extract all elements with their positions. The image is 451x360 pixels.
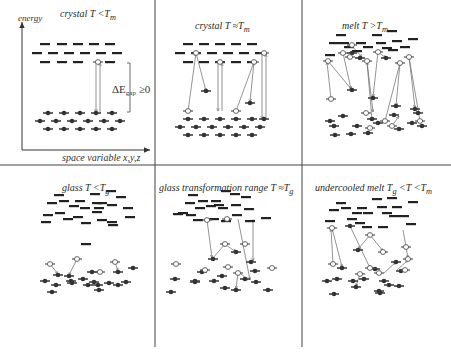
transition-arrow [384, 262, 396, 273]
energy-level [239, 52, 249, 54]
occupied-state-dot [78, 127, 83, 132]
title-text: glass transformation range T ≈T [159, 182, 289, 193]
occupied-state-dot [376, 121, 381, 126]
occupied-state-dot [96, 283, 101, 288]
occupied-state-dot [397, 284, 402, 289]
occupied-state-dot [178, 125, 183, 130]
occupied-state-dot [354, 285, 359, 290]
panel-crystal-at-tm [175, 43, 269, 137]
empty-state-circle [364, 59, 369, 64]
energy-level [81, 222, 91, 224]
energy-level [400, 46, 410, 48]
empty-state-circle [95, 60, 100, 65]
occupied-state-dot [325, 279, 330, 284]
occupied-state-dot [110, 127, 115, 132]
energy-level [94, 207, 104, 209]
occupied-state-dot [218, 133, 223, 138]
occupied-state-dot [362, 277, 367, 282]
occupied-state-dot [110, 111, 115, 116]
occupied-state-dot [382, 279, 387, 284]
transition-arrow [328, 61, 352, 90]
energy-level [223, 52, 233, 54]
occupied-state-dot [378, 291, 383, 296]
panel-glass-below-tg [40, 190, 138, 294]
occupied-state-dot [340, 266, 345, 271]
energy-level [112, 52, 122, 54]
empty-state-circle [225, 265, 230, 270]
empty-state-circle [397, 61, 402, 66]
occupied-state-dot [70, 281, 75, 286]
empty-state-circle [269, 266, 274, 271]
occupied-state-dot [394, 104, 399, 109]
occupied-state-dot [46, 127, 51, 132]
energy-level [57, 43, 67, 45]
empty-state-circle [357, 272, 362, 277]
empty-state-circle [261, 51, 266, 56]
energy-level [73, 61, 83, 63]
empty-state-circle [406, 55, 411, 60]
energy-level [372, 34, 382, 36]
occupied-state-dot [254, 280, 259, 285]
energy-level [57, 61, 67, 63]
occupied-state-dot [266, 288, 271, 293]
energy-level [241, 196, 251, 198]
occupied-state-dot [223, 286, 228, 291]
occupied-state-dot [410, 121, 415, 126]
occupied-state-dot [366, 131, 371, 136]
energy-level [41, 221, 51, 223]
occupied-state-dot [97, 288, 102, 293]
occupied-state-dot [332, 124, 337, 129]
occupied-state-dot [332, 292, 337, 297]
energy-level [231, 61, 241, 63]
occupied-state-dot [373, 267, 378, 272]
energy-level [186, 214, 196, 216]
energy-level [105, 43, 115, 45]
energy-level [261, 217, 271, 219]
occupied-state-dot [202, 117, 207, 122]
occupied-state-dot [131, 266, 136, 271]
y-axis-label: energy [18, 14, 42, 23]
occupied-state-dot [328, 119, 333, 124]
energy-level [198, 200, 208, 202]
occupied-state-dot [249, 260, 254, 265]
occupied-state-dot [350, 88, 355, 93]
energy-level-diagram [0, 0, 451, 360]
occupied-state-dot [102, 119, 107, 124]
occupied-state-dot [116, 270, 121, 275]
panel-title-glass: glass T <Tg [62, 183, 109, 196]
energy-level [107, 204, 117, 206]
occupied-state-dot [349, 132, 354, 137]
energy-level [206, 205, 216, 207]
energy-level [199, 61, 209, 63]
energy-level [406, 223, 416, 225]
title-tail: <T <T [397, 182, 426, 193]
empty-state-circle [222, 242, 227, 247]
occupied-state-dot [186, 117, 191, 122]
energy-level [376, 42, 386, 44]
occupied-state-dot [387, 283, 392, 288]
empty-state-circle [329, 226, 334, 231]
occupied-state-dot [54, 119, 59, 124]
panel-title-undercooled-melt: undercooled melt Tg <T <Tm [315, 183, 432, 196]
empty-state-circle [375, 50, 380, 55]
transition-arrow [373, 52, 378, 97]
empty-state-circle [340, 51, 345, 56]
energy-level [336, 202, 346, 204]
occupied-state-dot [358, 56, 363, 61]
empty-state-circle [202, 268, 207, 273]
energy-level [245, 220, 255, 222]
energy-level [97, 219, 107, 221]
occupied-state-dot [218, 117, 223, 122]
occupied-state-dot [384, 56, 389, 61]
occupied-state-dot [94, 111, 99, 116]
occupied-state-dot [62, 111, 67, 116]
panel-melt-above-tm [323, 30, 427, 137]
occupied-state-dot [253, 269, 258, 274]
empty-state-circle [74, 257, 79, 262]
title-sub: g [289, 187, 293, 196]
energy-level [195, 207, 205, 209]
occupied-state-dot [242, 125, 247, 130]
energy-level [64, 52, 74, 54]
energy-level [207, 52, 217, 54]
empty-state-circle [328, 97, 333, 102]
